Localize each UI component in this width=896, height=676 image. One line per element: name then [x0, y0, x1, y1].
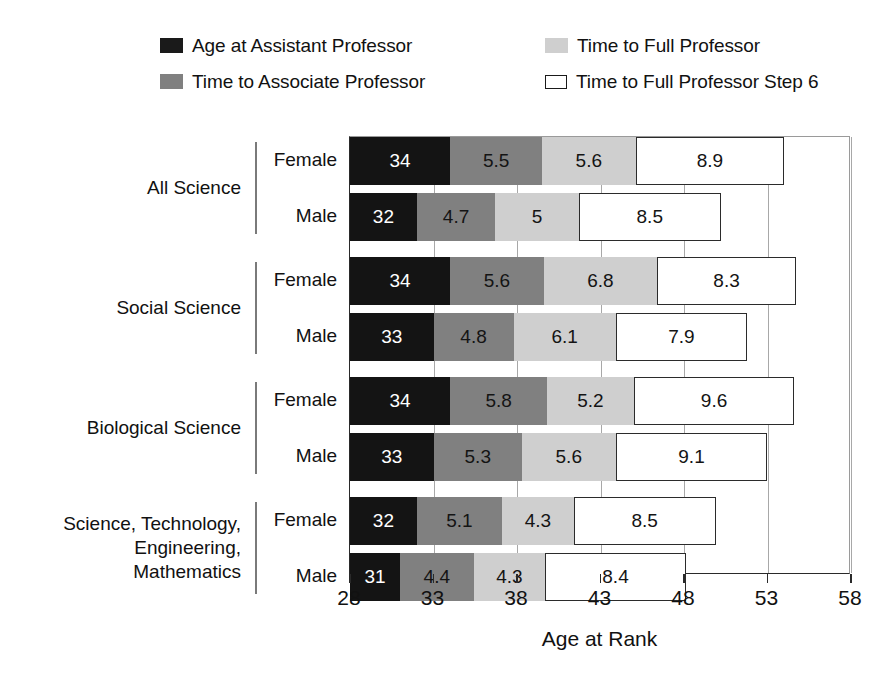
legend-swatch-icon: [545, 75, 567, 89]
group-label-line: Science, Technology,: [63, 512, 241, 536]
stacked-bar: 325.14.38.5: [350, 497, 716, 545]
y-axis-row-label: Female: [274, 496, 337, 544]
group-label-line: Mathematics: [63, 560, 241, 584]
legend-swatch-icon: [545, 38, 568, 53]
x-axis-tick-label: 53: [755, 586, 778, 610]
stacked-bar: 334.86.17.9: [350, 313, 747, 361]
bar-row: 345.55.68.9: [350, 137, 849, 185]
group-bracket: [255, 142, 257, 234]
group-bracket: [255, 502, 257, 594]
y-axis-row-label: Male: [296, 552, 337, 600]
legend-item: Time to Associate Professor: [160, 72, 425, 91]
bar-segment: 7.9: [616, 313, 748, 361]
x-axis-tick-label: 38: [504, 586, 527, 610]
x-axis-tick: [516, 574, 518, 583]
bar-segment: 5: [495, 193, 579, 241]
bar-segment: 4.3: [502, 497, 574, 545]
y-axis-row-label: Male: [296, 432, 337, 480]
group-label-line: Engineering,: [63, 536, 241, 560]
bar-segment: 8.5: [579, 193, 721, 241]
y-axis-row-label: Female: [274, 256, 337, 304]
chart-legend: Age at Assistant ProfessorTime to Associ…: [160, 36, 860, 106]
y-axis-row-label: Male: [296, 192, 337, 240]
group-label-line: Biological Science: [87, 416, 241, 440]
stacked-bar: 345.66.88.3: [350, 257, 796, 305]
bar-segment: 6.8: [544, 257, 658, 305]
y-axis-row-label: Female: [274, 136, 337, 184]
bar-segment: 5.5: [450, 137, 542, 185]
group-label-line: All Science: [147, 176, 241, 200]
x-axis-ticks: 28333843485358: [349, 574, 850, 586]
x-axis-tick-label: 48: [671, 586, 694, 610]
bar-segment: 5.2: [547, 377, 634, 425]
bar-segment: 8.5: [574, 497, 716, 545]
legend-label: Time to Full Professor: [577, 36, 760, 55]
bar-segment: 5.6: [450, 257, 544, 305]
x-axis-tick-label: 28: [337, 586, 360, 610]
legend-swatch-icon: [160, 74, 183, 89]
stacked-bar: 324.758.5: [350, 193, 721, 241]
bar-segment: 8.3: [657, 257, 796, 305]
bar-segment: 9.1: [616, 433, 768, 481]
group-bracket: [255, 382, 257, 474]
legend-label: Time to Full Professor Step 6: [576, 72, 818, 91]
stacked-bar: 335.35.69.1: [350, 433, 767, 481]
y-axis-group-label: Science, Technology,Engineering,Mathemat…: [63, 512, 241, 584]
bar-segment: 9.6: [634, 377, 794, 425]
gridline: [851, 137, 852, 573]
y-axis-group-label: All Science: [147, 176, 241, 200]
x-axis-tick-label: 33: [421, 586, 444, 610]
bar-row: 345.66.88.3: [350, 257, 849, 305]
bar-row: 345.85.29.6: [350, 377, 849, 425]
bar-segment: 5.8: [450, 377, 547, 425]
x-axis-tick-label: 43: [588, 586, 611, 610]
x-axis-tick: [683, 574, 685, 583]
legend-swatch-icon: [160, 38, 183, 53]
legend-label: Age at Assistant Professor: [192, 36, 412, 55]
legend-label: Time to Associate Professor: [192, 72, 425, 91]
x-axis-tick: [767, 574, 769, 583]
x-axis-tick: [600, 574, 602, 583]
legend-item: Age at Assistant Professor: [160, 36, 412, 55]
x-axis-tick: [433, 574, 435, 583]
y-axis-row-label: Male: [296, 312, 337, 360]
stacked-bar: 345.55.68.9: [350, 137, 784, 185]
legend-item: Time to Full Professor: [545, 36, 760, 55]
bar-segment: 32: [350, 193, 417, 241]
x-axis-tick: [349, 574, 351, 583]
y-axis-labels: FemaleMaleFemaleMaleFemaleMaleFemaleMale…: [0, 136, 349, 574]
bar-segment: 33: [350, 433, 434, 481]
x-axis-tick: [850, 574, 852, 583]
x-axis-title: Age at Rank: [349, 627, 850, 651]
y-axis-row-label: Female: [274, 376, 337, 424]
bar-segment: 5.6: [542, 137, 636, 185]
legend-item: Time to Full Professor Step 6: [545, 72, 818, 91]
bar-segment: 34: [350, 137, 450, 185]
group-bracket: [255, 262, 257, 354]
bar-row: 335.35.69.1: [350, 433, 849, 481]
bar-segment: 5.6: [522, 433, 616, 481]
bar-row: 325.14.38.5: [350, 497, 849, 545]
stacked-bar: 345.85.29.6: [350, 377, 794, 425]
bar-segment: 8.9: [636, 137, 785, 185]
y-axis-group-label: Social Science: [116, 296, 241, 320]
plot-area: 345.55.68.9324.758.5345.66.88.3334.86.17…: [349, 136, 850, 574]
bar-segment: 34: [350, 257, 450, 305]
y-axis-group-label: Biological Science: [87, 416, 241, 440]
group-label-line: Social Science: [116, 296, 241, 320]
bar-segment: 5.1: [417, 497, 502, 545]
bar-segment: 32: [350, 497, 417, 545]
bar-segment: 4.8: [434, 313, 514, 361]
bar-segment: 34: [350, 377, 450, 425]
bar-segment: 5.3: [434, 433, 523, 481]
bar-row: 334.86.17.9: [350, 313, 849, 361]
bar-segment: 33: [350, 313, 434, 361]
bar-segment: 4.7: [417, 193, 495, 241]
x-axis-tick-label: 58: [838, 586, 861, 610]
bar-segment: 6.1: [514, 313, 616, 361]
bar-row: 324.758.5: [350, 193, 849, 241]
